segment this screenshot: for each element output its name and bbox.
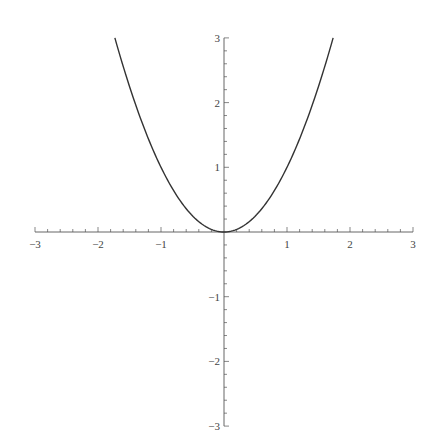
parabola-chart: −3−2−1123321−1−2−3: [0, 0, 441, 448]
x-tick-label: −2: [92, 238, 104, 250]
x-tick-label: −1: [155, 238, 167, 250]
x-tick-label: 1: [284, 238, 290, 250]
x-tick-label: 3: [410, 238, 416, 250]
y-tick-label: 1: [215, 161, 221, 173]
y-tick-label: −2: [208, 355, 220, 367]
y-tick-label: −1: [208, 291, 220, 303]
x-tick-label: 2: [347, 238, 353, 250]
y-tick-label: 3: [215, 32, 221, 44]
x-tick-label: −3: [29, 238, 41, 250]
y-tick-label: 2: [215, 97, 221, 109]
y-tick-label: −3: [208, 420, 220, 432]
